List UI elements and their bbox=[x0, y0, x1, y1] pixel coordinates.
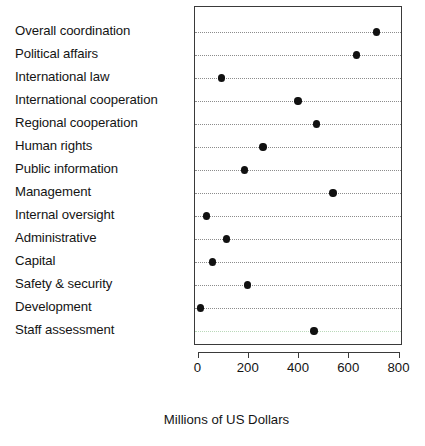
dot-plot-figure: Overall coordinationPolitical affairsInt… bbox=[0, 0, 425, 446]
x-axis-tick-label: 800 bbox=[387, 361, 409, 375]
category-label: International cooperation bbox=[15, 93, 158, 106]
x-axis-tick-label: 200 bbox=[237, 361, 259, 375]
category-label: Management bbox=[15, 185, 91, 198]
data-point[interactable] bbox=[294, 97, 301, 104]
x-axis-tick-label: 0 bbox=[194, 361, 201, 375]
category-label: International law bbox=[15, 70, 109, 83]
category-label: Political affairs bbox=[15, 47, 98, 60]
data-point[interactable] bbox=[373, 28, 380, 35]
plot-panel bbox=[194, 6, 402, 345]
category-label: Development bbox=[15, 300, 92, 313]
data-point[interactable] bbox=[241, 166, 248, 173]
gridline-row bbox=[195, 331, 401, 333]
data-point[interactable] bbox=[209, 258, 216, 265]
gridline-row bbox=[195, 170, 401, 172]
x-axis-tick-label: 600 bbox=[337, 361, 359, 375]
gridline-row bbox=[195, 147, 401, 149]
gridline-row bbox=[195, 262, 401, 264]
x-axis-tick-label: 400 bbox=[287, 361, 309, 375]
category-label: Administrative bbox=[15, 231, 96, 244]
gridline-row bbox=[195, 216, 401, 218]
x-axis-tick bbox=[198, 352, 199, 358]
plot-area bbox=[195, 7, 401, 344]
x-axis-tick bbox=[399, 352, 400, 358]
x-axis-title: Millions of US Dollars bbox=[0, 412, 425, 427]
category-label: Capital bbox=[15, 254, 55, 267]
category-label: Public information bbox=[15, 162, 118, 175]
data-point[interactable] bbox=[223, 235, 230, 242]
x-axis-tick bbox=[248, 352, 249, 358]
x-axis-tick bbox=[298, 352, 299, 358]
category-axis-labels: Overall coordinationPolitical affairsInt… bbox=[0, 0, 194, 345]
category-label: Human rights bbox=[15, 139, 92, 152]
data-point[interactable] bbox=[259, 143, 266, 150]
x-axis-tick bbox=[348, 352, 349, 358]
data-point[interactable] bbox=[353, 51, 360, 58]
category-label: Overall coordination bbox=[15, 24, 130, 37]
gridline-row bbox=[195, 308, 401, 310]
gridline-row bbox=[195, 124, 401, 126]
data-point[interactable] bbox=[197, 304, 204, 311]
x-axis: 0200400600800 bbox=[194, 352, 402, 353]
gridline-row bbox=[195, 193, 401, 195]
gridline-row bbox=[195, 32, 401, 34]
data-point[interactable] bbox=[310, 327, 317, 334]
data-point[interactable] bbox=[329, 189, 336, 196]
data-point[interactable] bbox=[203, 212, 210, 219]
gridline-row bbox=[195, 78, 401, 80]
gridline-row bbox=[195, 55, 401, 57]
category-label: Regional cooperation bbox=[15, 116, 138, 129]
data-point[interactable] bbox=[218, 74, 225, 81]
category-label: Safety & security bbox=[15, 277, 112, 290]
category-label: Internal oversight bbox=[15, 208, 114, 221]
data-point[interactable] bbox=[313, 120, 320, 127]
gridline-row bbox=[195, 285, 401, 287]
data-point[interactable] bbox=[244, 281, 251, 288]
category-label: Staff assessment bbox=[15, 323, 114, 336]
